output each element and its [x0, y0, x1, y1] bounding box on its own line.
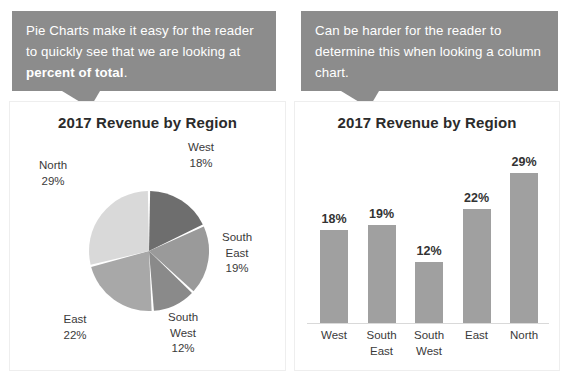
callout-pie-text-before: Pie Charts make it easy for the reader t…	[26, 23, 254, 59]
bar-slot: 18%	[311, 152, 357, 324]
category-label-south-west: South West	[406, 328, 452, 359]
callout-pie-text: Pie Charts make it easy for the reader t…	[26, 20, 266, 83]
bar-south-west	[415, 262, 443, 325]
column-chart-title: 2017 Revenue by Region	[295, 114, 559, 131]
callout-pie-text-after: .	[124, 65, 128, 80]
pie-label-south-west: South West 12%	[152, 310, 214, 357]
figure-root: Pie Charts make it easy for the reader t…	[0, 0, 569, 379]
callout-column-text: Can be harder for the reader to determin…	[315, 20, 548, 83]
bar-slot: 22%	[454, 152, 500, 324]
bar-value-label: 19%	[359, 207, 405, 221]
pie-chart-title: 2017 Revenue by Region	[10, 114, 285, 131]
column-chart-bars: 18%19%12%22%29%	[311, 152, 545, 324]
pie-label-east: East 22%	[44, 312, 106, 343]
callout-column-explanation: Can be harder for the reader to determin…	[301, 11, 558, 91]
bar-value-label: 12%	[406, 244, 452, 258]
pie-chart-graphic	[87, 189, 211, 313]
pie-label-west: West 18%	[170, 140, 232, 171]
pie-chart-panel: 2017 Revenue by Region West 18% South Ea…	[9, 101, 286, 371]
category-label-north: North	[501, 328, 547, 344]
column-chart-panel: 2017 Revenue by Region 18%19%12%22%29% W…	[294, 101, 560, 371]
callout-pie-explanation: Pie Charts make it easy for the reader t…	[12, 11, 276, 91]
bar-slot: 29%	[501, 152, 547, 324]
pie-label-north: North 29%	[22, 158, 84, 189]
bar-east	[463, 209, 491, 324]
category-label-east: East	[454, 328, 500, 344]
bar-value-label: 22%	[454, 191, 500, 205]
bar-south-east	[368, 225, 396, 324]
bar-west	[320, 230, 348, 324]
bar-slot: 19%	[359, 152, 405, 324]
pie-label-south-east: South East 19%	[206, 230, 268, 277]
column-chart-axis-line	[307, 323, 549, 324]
category-label-west: West	[311, 328, 357, 344]
column-chart-category-labels: WestSouth EastSouth WestEastNorth	[311, 328, 545, 368]
bar-value-label: 18%	[311, 212, 357, 226]
bar-value-label: 29%	[501, 155, 547, 169]
bar-north	[510, 173, 538, 324]
pie-slices	[89, 191, 209, 311]
callout-pie-text-bold: percent of total	[26, 65, 124, 80]
category-label-south-east: South East	[359, 328, 405, 359]
bar-slot: 12%	[406, 152, 452, 324]
